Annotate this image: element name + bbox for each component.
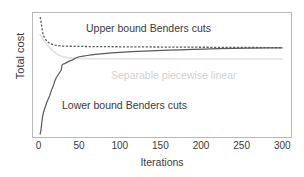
x-tick-label-0: 0 <box>36 140 42 152</box>
x-tick-label-150: 150 <box>152 140 169 152</box>
x-tick-label-200: 200 <box>193 140 210 152</box>
annotation-separable-piecewise-linear: Separable piecewise linear <box>111 69 237 81</box>
x-axis-title: Iterations <box>32 156 292 168</box>
x-tick-label-100: 100 <box>111 140 128 152</box>
series-lower-bound-benders-cuts <box>40 48 282 134</box>
y-axis-title: Total cost <box>14 11 26 101</box>
annotation-upper-bound: Upper bound Benders cuts <box>86 22 211 34</box>
x-axis-tick-labels: 050100150200250300 <box>32 140 292 154</box>
chart-figure: Upper bound Benders cuts Lower bound Ben… <box>0 0 304 177</box>
x-tick-label-300: 300 <box>274 140 291 152</box>
annotation-lower-bound: Lower bound Benders cuts <box>62 99 187 111</box>
x-tick-label-250: 250 <box>233 140 250 152</box>
x-tick-label-50: 50 <box>74 140 85 152</box>
